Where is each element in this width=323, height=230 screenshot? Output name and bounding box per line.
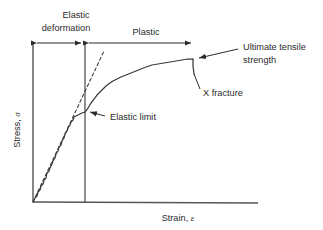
- fracture-drop-segment: [193, 59, 194, 74]
- elastic-limit-leader-line: [90, 112, 105, 116]
- annotation-leaders: [90, 49, 238, 116]
- stress-strain-curve: [33, 59, 193, 202]
- elastic-modulus-tangent-line: [33, 51, 104, 202]
- uts-leader-line: [199, 49, 238, 58]
- strain-axis-title-group: Strain, ε: [162, 213, 195, 223]
- curve-group: [33, 51, 194, 202]
- epsilon-symbol: ε: [191, 213, 195, 223]
- svg-text:Stress, σ: Stress, σ: [12, 112, 22, 148]
- plastic-region-label: Plastic: [132, 27, 159, 37]
- strain-axis: [33, 202, 258, 203]
- sigma-symbol: σ: [12, 112, 22, 117]
- ultimate-tensile-strength-label-line1: Ultimate tensile: [243, 42, 306, 52]
- stress-axis-title-group: Stress, σ: [12, 112, 22, 148]
- elastic-limit-label: Elastic limit: [110, 112, 156, 122]
- ultimate-tensile-strength-label-line2: strength: [243, 55, 276, 65]
- stress-strain-diagram: Elastic deformation Plastic Ultimate ten…: [0, 0, 323, 230]
- elastic-region-label-line1: Elastic: [62, 10, 89, 20]
- stress-axis-title: Stress,: [12, 117, 22, 148]
- x-fracture-label: X fracture: [203, 88, 243, 98]
- diagram-canvas: Elastic deformation Plastic Ultimate ten…: [0, 0, 323, 230]
- elastic-region-label-line2: deformation: [42, 23, 91, 33]
- strain-axis-title: Strain,: [162, 213, 191, 223]
- x-fracture-leader-line: [194, 74, 200, 89]
